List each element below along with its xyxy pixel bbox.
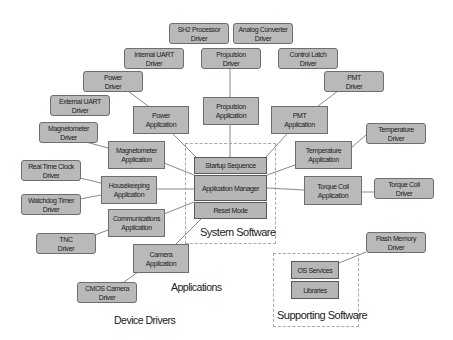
analog-converter-driver[interactable]: Analog ConverterDriver <box>233 23 293 44</box>
sh2-processor-driver[interactable]: SH2 ProcessorDriver <box>169 23 229 44</box>
system-software-label: System Software <box>200 226 276 238</box>
temperature-driver[interactable]: TemperatureDriver <box>366 123 426 144</box>
libraries-label: Libraries <box>303 286 327 295</box>
driver-name: TNC <box>58 235 75 244</box>
link-temperature-driver-app <box>351 135 366 148</box>
os-services-box[interactable]: OS Services <box>291 261 339 279</box>
housekeeping-application[interactable]: HousekeepingApplication <box>101 176 157 204</box>
driver-name: Real Time Clock <box>28 162 74 171</box>
driver-suffix: Driver <box>239 34 288 43</box>
reset-mode-label: Reset Mode <box>213 206 247 215</box>
internal-uart-driver[interactable]: Internal UARTDriver <box>124 48 184 69</box>
startup-sequence-label: Startup Sequence <box>205 161 255 170</box>
link-rtc-driver-app <box>80 178 101 183</box>
external-uart-driver[interactable]: External UARTDriver <box>50 95 110 116</box>
link-power-driver-app <box>128 91 148 106</box>
real-time-clock-driver[interactable]: Real Time ClockDriver <box>21 160 81 181</box>
communications-application[interactable]: CommunicationsApplication <box>108 209 165 237</box>
driver-suffix: Driver <box>216 59 246 68</box>
cmos-camera-driver[interactable]: CMOS CameraDriver <box>77 282 137 303</box>
driver-name: PMT <box>346 73 363 82</box>
app-suffix: Application <box>216 111 246 120</box>
camera-application[interactable]: CameraApplication <box>133 244 189 273</box>
driver-suffix: Driver <box>289 59 326 68</box>
app-suffix: Application <box>284 120 314 129</box>
driver-suffix: Driver <box>58 244 75 253</box>
flash-memory-driver[interactable]: Flash MemoryDriver <box>366 232 426 253</box>
temperature-application[interactable]: TemperatureApplication <box>295 141 352 169</box>
app-name: Camera <box>146 250 176 259</box>
libraries-box[interactable]: Libraries <box>291 281 339 299</box>
app-suffix: Application <box>109 190 150 199</box>
driver-suffix: Driver <box>376 243 416 252</box>
driver-suffix: Driver <box>48 133 89 142</box>
driver-suffix: Driver <box>104 82 122 91</box>
pmt-driver[interactable]: PMTDriver <box>324 71 384 92</box>
app-name: Power <box>146 111 176 120</box>
startup-sequence-box[interactable]: Startup Sequence <box>194 157 267 174</box>
driver-name: SH2 Processor <box>178 25 221 34</box>
supporting-software-label: Supporting Software <box>277 309 367 321</box>
app-suffix: Application <box>113 223 160 232</box>
app-name: Housekeeping <box>109 181 150 190</box>
driver-suffix: Driver <box>28 205 74 214</box>
magnetometer-application[interactable]: MagnetometerApplication <box>108 141 165 169</box>
app-name: Temperature <box>306 146 341 155</box>
device-drivers-layer-label: Device Drivers <box>114 314 175 326</box>
os-services-label: OS Services <box>297 266 332 275</box>
link-cmos-driver-app <box>124 272 138 282</box>
power-driver[interactable]: PowerDriver <box>83 71 143 92</box>
pmt-application[interactable]: PMTApplication <box>271 106 328 134</box>
driver-name: Magnetometer <box>48 124 89 133</box>
driver-name: Temperature <box>378 125 413 134</box>
torque-coil-application[interactable]: Torque CoilApplication <box>304 176 362 205</box>
link-tnc-driver-app <box>95 230 108 235</box>
propulsion-application[interactable]: PropulsionApplication <box>203 97 259 125</box>
link-watchdog-driver-app <box>80 195 101 199</box>
app-name: Propulsion <box>216 102 246 111</box>
driver-name: Internal UART <box>134 50 174 59</box>
driver-name: Control Latch <box>289 50 326 59</box>
torque-coil-driver[interactable]: Torque CoilDriver <box>374 178 434 199</box>
application-manager-label: Application Manager <box>202 184 259 193</box>
reset-mode-box[interactable]: Reset Mode <box>194 202 267 219</box>
driver-suffix: Driver <box>178 34 221 43</box>
tnc-driver[interactable]: TNCDriver <box>36 233 96 254</box>
propulsion-driver[interactable]: PropulsionDriver <box>201 48 261 69</box>
driver-suffix: Driver <box>134 59 174 68</box>
watchdog-timer-driver[interactable]: Watchdog TimerDriver <box>21 194 81 215</box>
driver-suffix: Driver <box>378 134 413 143</box>
application-manager-box[interactable]: Application Manager <box>194 175 267 201</box>
app-suffix: Application <box>116 155 157 164</box>
driver-suffix: Driver <box>346 82 363 91</box>
driver-suffix: Driver <box>59 106 101 115</box>
app-name: PMT <box>284 111 314 120</box>
control-latch-driver[interactable]: Control LatchDriver <box>278 48 338 69</box>
driver-name: Torque Coil <box>388 180 420 189</box>
driver-name: Propulsion <box>216 50 246 59</box>
app-suffix: Application <box>306 155 341 164</box>
driver-name: CMOS Camera <box>85 284 129 293</box>
magnetometer-driver[interactable]: MagnetometerDriver <box>39 122 98 143</box>
driver-name: Analog Converter <box>239 25 288 34</box>
link-pmt-driver-app <box>318 91 338 106</box>
app-name: Communications <box>113 214 160 223</box>
app-suffix: Application <box>317 191 349 200</box>
architecture-diagram: System Software Startup Sequence Applica… <box>0 0 453 340</box>
power-application[interactable]: PowerApplication <box>133 106 189 134</box>
app-suffix: Application <box>146 120 176 129</box>
driver-name: Flash Memory <box>376 234 416 243</box>
driver-name: External UART <box>59 97 101 106</box>
app-suffix: Application <box>146 259 176 268</box>
app-name: Magnetometer <box>116 146 157 155</box>
driver-suffix: Driver <box>85 293 129 302</box>
applications-layer-label: Applications <box>171 281 222 293</box>
driver-suffix: Driver <box>388 189 420 198</box>
driver-name: Power <box>104 73 122 82</box>
driver-name: Watchdog Timer <box>28 196 74 205</box>
driver-suffix: Driver <box>28 171 74 180</box>
app-name: Torque Coil <box>317 182 349 191</box>
